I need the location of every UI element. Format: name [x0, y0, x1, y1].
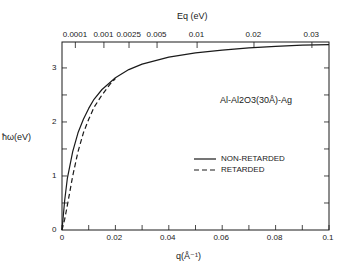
top-tick-label: 0.0001 — [63, 31, 87, 39]
x-tick-label: 0.1 — [322, 234, 333, 242]
y-tick-label: 3 — [52, 64, 56, 72]
dashed-line-icon — [194, 168, 216, 172]
top-axis-title: Eq (eV) — [177, 12, 208, 21]
legend: NON-RETARDED RETARDED — [194, 153, 285, 175]
x-tick-label: 0.06 — [213, 234, 229, 242]
legend-label: NON-RETARDED — [221, 154, 285, 163]
x-tick-label: 0 — [60, 234, 64, 242]
plot-frame — [62, 42, 329, 230]
axis-ticks — [62, 42, 329, 230]
data-lines — [62, 45, 329, 230]
x-axis-title: q(Å⁻¹) — [176, 252, 201, 261]
sample-annotation-text: Al-Al2O3(30Å)-Ag — [220, 95, 292, 105]
top-axis-title-text: Eq (eV) — [177, 11, 208, 21]
legend-item-retarded: RETARDED — [194, 164, 285, 175]
top-tick-label: 0.005 — [147, 31, 167, 39]
top-tick-label: 0.02 — [246, 31, 262, 39]
y-axis-title-text: ħω(eV) — [2, 132, 31, 142]
x-axis-title-text: q(Å⁻¹) — [176, 251, 201, 261]
y-axis-title: ħω(eV) — [2, 133, 31, 142]
y-tick-label: 2 — [52, 118, 56, 126]
solid-line-icon — [194, 157, 216, 161]
y-tick-label: 0 — [52, 226, 56, 234]
sample-annotation: Al-Al2O3(30Å)-Ag — [220, 96, 292, 105]
top-tick-label: 0.01 — [189, 31, 205, 39]
series-line-non-retarded — [62, 45, 329, 230]
legend-label: RETARDED — [221, 165, 264, 174]
top-tick-label: 0.0025 — [116, 31, 140, 39]
x-tick-label: 0.02 — [107, 234, 123, 242]
top-tick-label: 0.03 — [304, 31, 320, 39]
legend-item-non-retarded: NON-RETARDED — [194, 153, 285, 164]
y-tick-label: 1 — [52, 172, 56, 180]
top-tick-label: 0.001 — [93, 31, 113, 39]
x-tick-label: 0.08 — [267, 234, 283, 242]
x-tick-label: 0.04 — [160, 234, 176, 242]
series-line-retarded — [62, 79, 115, 230]
